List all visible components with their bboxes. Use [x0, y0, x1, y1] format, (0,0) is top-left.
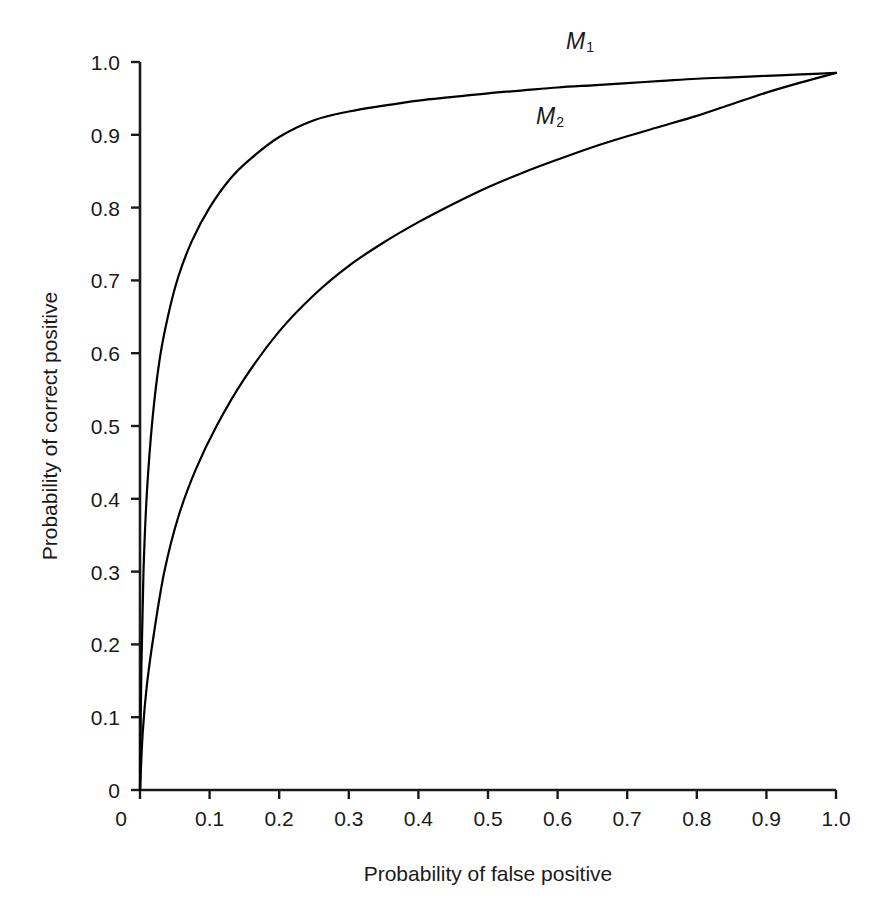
- series-label-m2: M2: [536, 103, 563, 130]
- series-label-m2-text: M: [536, 103, 555, 129]
- x-tick-label-9: 0.9: [731, 806, 801, 832]
- x-tick-label-wrap-5: 0.5: [453, 806, 523, 832]
- y-tick-label-7: 0.7: [60, 270, 120, 291]
- x-tick-label-wrap-1: 0.1: [175, 806, 245, 832]
- plot-canvas: [0, 0, 890, 915]
- x-tick-label-10: 1.0: [801, 806, 871, 832]
- x-tick-label-0: 0: [86, 806, 156, 832]
- series-label-m1-text: M: [566, 28, 585, 54]
- series-label-m1: M1: [566, 28, 593, 55]
- roc-chart-figure: 00.10.20.30.40.50.60.70.80.91.0 00.10.20…: [0, 0, 890, 915]
- x-axis-title: Probability of false positive: [140, 862, 836, 886]
- curve-m2: [140, 73, 836, 790]
- x-tick-label-5: 0.5: [453, 806, 523, 832]
- axis-lines: [140, 62, 836, 790]
- curve-m1: [140, 73, 836, 790]
- series-label-m1-subscript: 1: [586, 39, 594, 55]
- x-tick-label-wrap-8: 0.8: [662, 806, 732, 832]
- y-tick-label-0: 0: [60, 780, 120, 801]
- x-tick-label-wrap-4: 0.4: [383, 806, 453, 832]
- y-tick-label-5: 0.5: [60, 416, 120, 437]
- x-tick-label-wrap-2: 0.2: [244, 806, 314, 832]
- y-tick-label-2: 0.2: [60, 634, 120, 655]
- x-tick-label-wrap-3: 0.3: [314, 806, 384, 832]
- x-tick-label-1: 0.1: [175, 806, 245, 832]
- y-tick-label-10: 1.0: [60, 52, 120, 73]
- x-tick-label-6: 0.6: [523, 806, 593, 832]
- x-tick-label-wrap-0: 0: [86, 806, 156, 832]
- series-label-m2-subscript: 2: [556, 114, 564, 130]
- y-tick-label-9: 0.9: [60, 125, 120, 146]
- x-tick-label-7: 0.7: [592, 806, 662, 832]
- series-curves: [140, 73, 836, 790]
- x-tick-label-3: 0.3: [314, 806, 384, 832]
- x-tick-label-wrap-9: 0.9: [731, 806, 801, 832]
- y-tick-label-3: 0.3: [60, 562, 120, 583]
- y-tick-label-6: 0.6: [60, 343, 120, 364]
- y-axis-title: Probability of correct positive: [38, 216, 62, 636]
- x-tick-label-2: 0.2: [244, 806, 314, 832]
- y-tick-label-4: 0.4: [60, 489, 120, 510]
- y-tick-label-1: 0.1: [60, 707, 120, 728]
- y-tick-label-8: 0.8: [60, 198, 120, 219]
- x-tick-label-8: 0.8: [662, 806, 732, 832]
- x-tick-label-wrap-6: 0.6: [523, 806, 593, 832]
- x-tick-label-wrap-10: 1.0: [801, 806, 871, 832]
- x-tick-label-4: 0.4: [383, 806, 453, 832]
- x-tick-label-wrap-7: 0.7: [592, 806, 662, 832]
